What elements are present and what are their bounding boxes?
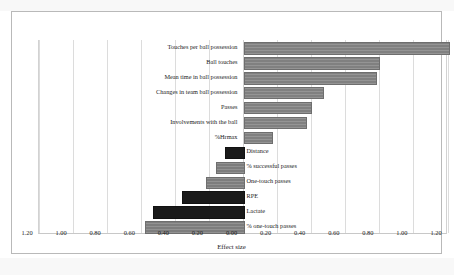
bar-category-label: Mean time in ball possession	[39, 70, 241, 85]
bar-category-label: RPE	[247, 189, 448, 204]
x-tick-label-5: 0.20	[180, 229, 214, 236]
bar-category-label: % successful passes	[247, 159, 448, 174]
bar-8	[216, 162, 245, 175]
bar-1	[244, 57, 381, 70]
gridline-1.20-12	[448, 40, 449, 233]
x-tick-label-8: 0.40	[283, 229, 317, 236]
x-tick-label-2: 0.80	[78, 229, 112, 236]
figure-canvas: Touches per ball possessionBall touchesM…	[0, 0, 454, 275]
bar-row: Changes in team ball possession	[39, 85, 446, 100]
bar-category-label: Involvements with the ball	[39, 115, 241, 130]
x-tick-label-9: 0.60	[317, 229, 351, 236]
bar-row: Lactate	[39, 204, 446, 219]
bar-0	[244, 42, 451, 55]
bar-6	[244, 132, 273, 145]
x-tick-label-11: 1.00	[385, 229, 419, 236]
plot-area: Touches per ball possessionBall touchesM…	[38, 40, 447, 234]
bar-row: Mean time in ball possession	[39, 70, 446, 85]
bar-category-label: Passes	[39, 100, 241, 115]
x-tick-label-10: 0.80	[351, 229, 385, 236]
bar-4	[244, 102, 312, 115]
scan-edge-top	[0, 0, 454, 11]
bar-row: %Hrmax	[39, 130, 446, 145]
bar-11	[153, 206, 245, 219]
bar-category-label: Distance	[247, 144, 448, 159]
bar-5	[244, 117, 307, 130]
bar-category-label: %Hrmax	[39, 130, 241, 145]
bar-9	[206, 177, 245, 190]
bar-row: One-touch passes	[39, 174, 446, 189]
bar-7	[225, 147, 246, 160]
chart-frame: Touches per ball possessionBall touchesM…	[11, 11, 442, 254]
bar-2	[244, 72, 377, 85]
bar-row: RPE	[39, 189, 446, 204]
x-tick-label-7: 0.20	[249, 229, 283, 236]
scan-edge-bottom	[0, 258, 454, 275]
bar-row: Passes	[39, 100, 446, 115]
bar-category-label: One-touch passes	[247, 174, 448, 189]
x-tick-label-6: 0.00	[215, 229, 249, 236]
bar-row: Touches per ball possession	[39, 40, 446, 55]
x-tick-label-0: 1.20	[10, 229, 44, 236]
x-tick-label-1: 1.00	[44, 229, 78, 236]
bar-category-label: Ball touches	[39, 55, 241, 70]
bar-category-label: Touches per ball possession	[39, 40, 241, 55]
x-tick-label-12: 1.20	[419, 229, 453, 236]
bar-10	[182, 191, 245, 204]
bar-category-label: Lactate	[247, 204, 448, 219]
bar-row: Distance	[39, 144, 446, 159]
bar-row: Involvements with the ball	[39, 115, 446, 130]
x-tick-label-4: 0.40	[146, 229, 180, 236]
x-axis-title: Effect size	[172, 243, 292, 250]
bar-row: % successful passes	[39, 159, 446, 174]
bar-category-label: Changes in team ball possession	[39, 85, 241, 100]
bar-row: Ball touches	[39, 55, 446, 70]
x-tick-label-3: 0.60	[112, 229, 146, 236]
bar-3	[244, 87, 324, 100]
